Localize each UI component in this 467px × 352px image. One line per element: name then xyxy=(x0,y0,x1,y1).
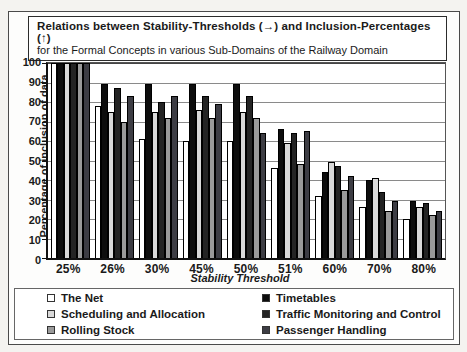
legend-item-timetables: Timetables xyxy=(262,291,453,306)
chart-title-line1: Relations between Stability-Thresholds (… xyxy=(37,20,438,44)
legend-item-traffic-monitoring-and-control: Traffic Monitoring and Control xyxy=(262,307,453,322)
bar-group-30% xyxy=(136,63,180,258)
bar-group-80% xyxy=(401,63,445,258)
legend-item-rolling-stock: Rolling Stock xyxy=(47,323,262,338)
y-tick-label: 80 xyxy=(29,96,41,107)
bar-passenger-handling-50% xyxy=(260,133,267,258)
legend-label: Rolling Stock xyxy=(61,323,134,338)
legend-swatch xyxy=(262,326,270,334)
chart-title-line2: for the Formal Concepts in various Sub-D… xyxy=(37,44,438,56)
bar-group-51% xyxy=(269,63,313,258)
legend-item-passenger-handling: Passenger Handling xyxy=(262,323,453,338)
legend-label: The Net xyxy=(61,291,103,306)
bar-group-26% xyxy=(92,63,136,258)
chart-figure: Relations between Stability-Thresholds (… xyxy=(8,11,460,345)
bar-passenger-handling-45% xyxy=(215,104,222,258)
bar-passenger-handling-30% xyxy=(171,96,178,258)
bar-passenger-handling-60% xyxy=(348,176,355,258)
bar-group-70% xyxy=(357,63,401,258)
legend-swatch xyxy=(47,310,55,318)
bar-group-25% xyxy=(48,63,92,258)
y-tick-label: 0 xyxy=(35,255,41,266)
plot-area xyxy=(46,62,446,260)
bar-group-45% xyxy=(180,63,224,258)
y-tick-label: 100 xyxy=(23,57,41,68)
y-tick-label: 30 xyxy=(29,195,41,206)
legend-item-scheduling-and-allocation: Scheduling and Allocation xyxy=(47,307,262,322)
bar-passenger-handling-51% xyxy=(304,131,311,258)
y-tick-label: 20 xyxy=(29,215,41,226)
legend-swatch xyxy=(47,294,55,302)
legend-swatch xyxy=(262,294,270,302)
bar-passenger-handling-26% xyxy=(127,96,134,258)
y-tick-label: 70 xyxy=(29,116,41,127)
legend-label: Timetables xyxy=(276,291,336,306)
legend-label: Scheduling and Allocation xyxy=(61,307,205,322)
y-axis: 0102030405060708090100 xyxy=(17,62,43,260)
legend-label: Passenger Handling xyxy=(276,323,387,338)
legend-swatch xyxy=(262,310,270,318)
bar-passenger-handling-80% xyxy=(436,211,443,258)
y-tick-label: 40 xyxy=(29,175,41,186)
chart-title: Relations between Stability-Thresholds (… xyxy=(28,16,447,61)
y-tick-label: 90 xyxy=(29,76,41,87)
bar-group-60% xyxy=(313,63,357,258)
bar-passenger-handling-25% xyxy=(83,63,90,258)
y-tick-label: 50 xyxy=(29,156,41,167)
y-tick-label: 60 xyxy=(29,136,41,147)
x-axis-title: Stability Threshold xyxy=(40,272,440,284)
y-tick-label: 10 xyxy=(29,235,41,246)
legend: The Net Timetables Scheduling and Alloca… xyxy=(14,288,454,340)
legend-item-the-net: The Net xyxy=(47,291,262,306)
legend-label: Traffic Monitoring and Control xyxy=(276,307,441,322)
bar-groups xyxy=(48,63,445,258)
legend-swatch xyxy=(47,326,55,334)
bar-passenger-handling-70% xyxy=(392,201,399,258)
bar-group-50% xyxy=(224,63,268,258)
